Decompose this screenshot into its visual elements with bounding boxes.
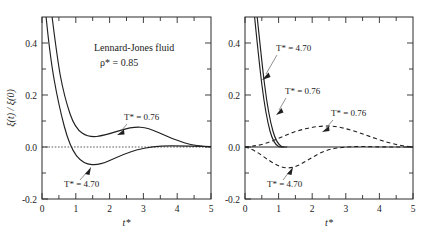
left-yaxis-label: ξ(t) / ξ(0) <box>5 89 17 127</box>
right-annotation-dash-T470-label: T* = 4.70 <box>267 179 303 189</box>
right-annotation-dash-T076: T* = 0.76 <box>322 108 367 132</box>
left-xtick-label-0: 0 <box>40 204 45 214</box>
right-annotation-solid-T076: T* = 0.76 <box>276 86 321 115</box>
right-x-major-ticks <box>245 17 413 199</box>
right-xtick-label-2: 2 <box>310 204 315 214</box>
right-annotation-dash-T076-label: T* = 0.76 <box>331 108 367 118</box>
left-ytick-label-2: 0.0 <box>25 143 37 153</box>
right-plot-frame <box>245 17 413 199</box>
left-ytick-label-0: 0.4 <box>25 39 37 49</box>
left-xtick-label-5: 5 <box>209 204 214 214</box>
right-ytick-label-3: -0.2 <box>225 195 240 205</box>
right-ytick-label-1: 0.2 <box>228 91 240 101</box>
left-ytick-label-3: -0.2 <box>22 195 37 205</box>
left-xtick-label-2: 2 <box>107 204 112 214</box>
left-annotation-T470-label: T* = 4.70 <box>64 179 100 189</box>
right-ytick-label-0: 0.4 <box>228 39 240 49</box>
left-xaxis-label: t* <box>123 217 131 228</box>
figure-container: 0.4 0.2 0.0 -0.2 0 1 2 3 4 5 t* ξ(t) / ξ… <box>0 0 426 236</box>
right-xtick-label-5: 5 <box>411 204 416 214</box>
right-xaxis-label: t* <box>325 217 333 228</box>
right-ytick-label-2: 0.0 <box>228 143 240 153</box>
left-xtick-label-3: 3 <box>141 204 146 214</box>
right-xtick-label-0: 0 <box>243 204 248 214</box>
left-note-density: ρ* = 0.85 <box>100 57 138 68</box>
right-annotation-dash-T470: T* = 4.70 <box>267 167 303 189</box>
right-curve-dash-T470 <box>245 147 413 168</box>
left-annotation-T076: T* = 0.76 <box>117 112 160 135</box>
two-panel-plot: 0.4 0.2 0.0 -0.2 0 1 2 3 4 5 t* ξ(t) / ξ… <box>0 0 426 236</box>
right-panel: 0.4 0.2 0.0 -0.2 0 1 2 3 4 5 t* T* = 4.7… <box>225 17 416 228</box>
left-panel: 0.4 0.2 0.0 -0.2 0 1 2 3 4 5 t* ξ(t) / ξ… <box>5 17 214 228</box>
left-curve-T076 <box>52 17 211 147</box>
left-ytick-label-1: 0.2 <box>25 91 37 101</box>
right-xtick-label-1: 1 <box>276 204 281 214</box>
right-xtick-label-4: 4 <box>377 204 382 214</box>
right-annotation-solid-T076-label: T* = 0.76 <box>285 86 321 96</box>
left-note-system: Lennard-Jones fluid <box>94 42 174 53</box>
right-annotation-solid-T470: T* = 4.70 <box>262 43 312 80</box>
left-xtick-label-1: 1 <box>73 204 78 214</box>
right-xtick-label-3: 3 <box>343 204 348 214</box>
left-annotation-T076-label: T* = 0.76 <box>124 112 160 122</box>
left-annotation-T470: T* = 4.70 <box>64 167 100 189</box>
right-annotation-solid-T470-label: T* = 4.70 <box>276 43 312 53</box>
left-curve-T470 <box>46 17 211 165</box>
left-xtick-label-4: 4 <box>175 204 180 214</box>
